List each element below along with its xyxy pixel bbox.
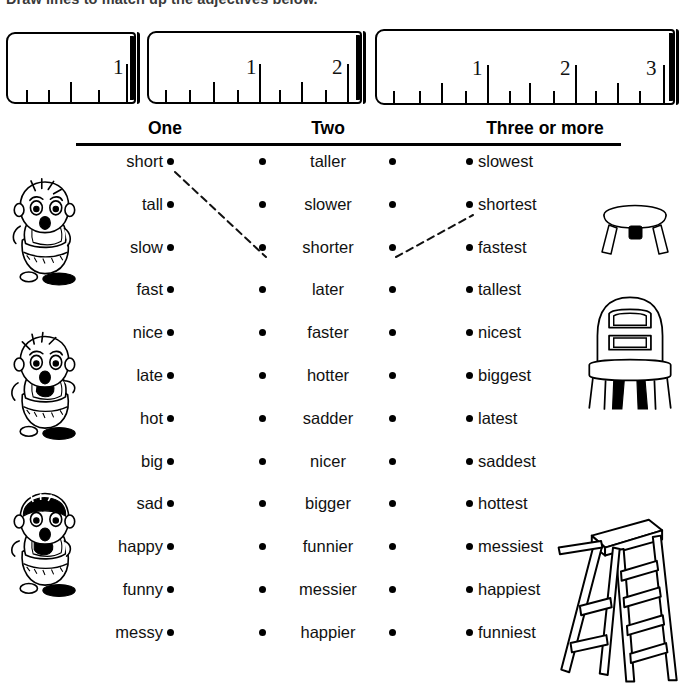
ruler-tick-major: [259, 64, 261, 102]
word-two-funnier: funnier: [273, 537, 383, 555]
column-header-3: Three or more: [440, 118, 650, 139]
word-one-messy: messy: [13, 623, 163, 641]
adjective-row: tallslowershortest: [0, 195, 683, 238]
ruler-tick-half: [213, 82, 215, 102]
match-dot-1[interactable]: [167, 458, 174, 465]
word-one-big: big: [13, 452, 163, 470]
word-two-later: later: [273, 280, 383, 298]
ruler-tick-minor: [26, 90, 28, 102]
match-dot-4[interactable]: [466, 286, 473, 293]
match-dot-4[interactable]: [466, 201, 473, 208]
adjective-row: shorttallerslowest: [0, 152, 683, 195]
match-dot-4[interactable]: [466, 158, 473, 165]
match-dot-2[interactable]: [259, 372, 266, 379]
match-dot-1[interactable]: [167, 286, 174, 293]
match-dot-1[interactable]: [167, 415, 174, 422]
match-dot-1[interactable]: [167, 329, 174, 336]
match-dot-4[interactable]: [466, 629, 473, 636]
match-dot-3[interactable]: [389, 286, 396, 293]
ruler-tick-major: [575, 65, 577, 103]
match-dot-2[interactable]: [259, 629, 266, 636]
ruler-tick-half: [301, 82, 303, 102]
match-dot-3[interactable]: [389, 500, 396, 507]
ruler-tick-minor: [419, 91, 421, 103]
word-two-happier: happier: [273, 623, 383, 641]
ruler-tick-minor: [553, 91, 555, 103]
adjective-row: slowshorterfastest: [0, 238, 683, 281]
match-dot-2[interactable]: [259, 415, 266, 422]
ruler-tick-half: [70, 82, 72, 102]
match-dot-1[interactable]: [167, 543, 174, 550]
ruler-tick-minor: [48, 90, 50, 102]
match-dot-2[interactable]: [259, 500, 266, 507]
match-dot-2[interactable]: [259, 329, 266, 336]
ruler-tick-number: 1: [113, 55, 124, 80]
match-dot-3[interactable]: [389, 458, 396, 465]
match-dot-4[interactable]: [466, 244, 473, 251]
match-dot-3[interactable]: [389, 543, 396, 550]
match-dot-4[interactable]: [466, 415, 473, 422]
match-dot-1[interactable]: [167, 586, 174, 593]
match-dot-3[interactable]: [389, 244, 396, 251]
word-three-slowest: slowest: [478, 152, 608, 170]
ruler-tick-number: 2: [332, 55, 343, 80]
match-dot-3[interactable]: [389, 629, 396, 636]
match-dot-4[interactable]: [466, 500, 473, 507]
match-dot-1[interactable]: [167, 158, 174, 165]
ruler-tick-minor: [325, 90, 327, 102]
word-two-hotter: hotter: [273, 366, 383, 384]
ruler-tick-minor: [595, 91, 597, 103]
ruler-outer-edge: [363, 31, 366, 104]
ruler-tick-number: 2: [560, 56, 571, 81]
match-dot-3[interactable]: [389, 372, 396, 379]
match-dot-4[interactable]: [466, 458, 473, 465]
ruler-outer-edge: [137, 32, 140, 104]
ruler-tick-number: 1: [472, 56, 483, 81]
baby-sitting-illustration: [4, 477, 86, 607]
match-dot-1[interactable]: [167, 201, 174, 208]
match-dot-1[interactable]: [167, 500, 174, 507]
worksheet-instruction: Draw lines to match up the adjectives be…: [6, 0, 476, 7]
adjective-row: bignicersaddest: [0, 452, 683, 495]
match-dot-3[interactable]: [389, 415, 396, 422]
word-two-nicer: nicer: [273, 452, 383, 470]
match-dot-2[interactable]: [259, 158, 266, 165]
word-two-taller: taller: [273, 152, 383, 170]
ruler-tick-major: [126, 64, 128, 102]
ruler-tick-major: [487, 65, 489, 103]
ruler-tick-minor: [393, 91, 395, 103]
match-dot-2[interactable]: [259, 458, 266, 465]
match-dot-1[interactable]: [167, 244, 174, 251]
ruler-tick-number: 3: [646, 56, 657, 81]
match-dot-4[interactable]: [466, 586, 473, 593]
ruler-tick-minor: [509, 91, 511, 103]
match-dot-2[interactable]: [259, 586, 266, 593]
match-dot-2[interactable]: [259, 244, 266, 251]
word-two-sadder: sadder: [273, 409, 383, 427]
match-dot-2[interactable]: [259, 201, 266, 208]
match-dot-1[interactable]: [167, 629, 174, 636]
ruler-end-cap: [130, 36, 135, 100]
stool-illustration: [592, 193, 678, 266]
ruler-tick-minor: [165, 90, 167, 102]
ruler-one: 1: [6, 32, 136, 104]
word-two-faster: faster: [273, 323, 383, 341]
match-dot-4[interactable]: [466, 329, 473, 336]
chair-illustration: [580, 288, 680, 416]
match-dot-4[interactable]: [466, 372, 473, 379]
column-header-2: Two: [258, 118, 398, 139]
word-three-fastest: fastest: [478, 238, 608, 256]
match-dot-3[interactable]: [389, 158, 396, 165]
match-dot-2[interactable]: [259, 286, 266, 293]
match-dot-3[interactable]: [389, 586, 396, 593]
match-dot-2[interactable]: [259, 543, 266, 550]
column-headers: OneTwoThree or more: [0, 118, 683, 152]
match-dot-3[interactable]: [389, 201, 396, 208]
ruler-outer-edge: [676, 29, 679, 105]
ruler-tick-half: [441, 83, 443, 103]
match-dot-4[interactable]: [466, 543, 473, 550]
match-dot-1[interactable]: [167, 372, 174, 379]
ladder-illustration: [552, 498, 682, 694]
match-dot-3[interactable]: [389, 329, 396, 336]
ruler-end-cap: [356, 35, 361, 100]
